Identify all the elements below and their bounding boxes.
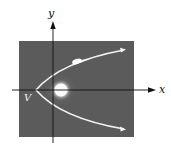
y-axis-label: y: [47, 7, 55, 20]
parabolic-orbit-diagram: x y V: [0, 0, 171, 151]
x-axis-arrow-icon: [148, 87, 156, 92]
x-axis-label: x: [159, 83, 166, 96]
y-axis-arrow-icon: [50, 21, 55, 29]
